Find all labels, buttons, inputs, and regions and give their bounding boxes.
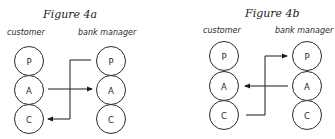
svg-text:C: C	[221, 111, 227, 121]
figure-4b: Figure 4b customer bank manager P A C P	[203, 7, 334, 130]
ego-state-child: C	[210, 101, 239, 130]
customer-label: customer	[7, 28, 45, 37]
ego-state-adult: A	[210, 72, 239, 101]
customer-label: customer	[203, 26, 241, 35]
bank-manager-ego-states: P A C	[97, 47, 126, 134]
ego-state-parent: P	[15, 47, 44, 76]
svg-text:C: C	[26, 115, 32, 125]
figure-4a: Figure 4a customer bank manager P A C P	[7, 8, 137, 134]
svg-text:P: P	[26, 57, 31, 67]
svg-text:C: C	[304, 111, 310, 121]
ego-state-adult: A	[97, 76, 126, 105]
ego-state-adult: A	[293, 72, 322, 101]
figure-title: Figure 4a	[42, 8, 97, 21]
svg-text:A: A	[26, 86, 32, 96]
ego-state-parent: P	[293, 42, 322, 71]
ego-state-parent: P	[210, 42, 239, 71]
svg-text:A: A	[304, 82, 310, 92]
customer-ego-states: P A C	[15, 47, 44, 134]
customer-ego-states: P A C	[210, 42, 239, 130]
svg-text:A: A	[108, 86, 114, 96]
bank-manager-ego-states: P A C	[293, 42, 322, 130]
ego-state-adult: A	[15, 76, 44, 105]
svg-text:P: P	[304, 52, 309, 62]
ego-state-parent: P	[97, 47, 126, 76]
bank-manager-label: bank manager	[78, 28, 137, 37]
svg-text:A: A	[221, 82, 227, 92]
ego-state-child: C	[15, 105, 44, 134]
transactional-analysis-diagram: Figure 4a customer bank manager P A C P	[0, 0, 335, 139]
svg-text:C: C	[108, 115, 114, 125]
bank-manager-label: bank manager	[275, 26, 334, 35]
ego-state-child: C	[293, 101, 322, 130]
svg-text:P: P	[108, 57, 113, 67]
figure-title: Figure 4b	[244, 7, 300, 20]
svg-text:P: P	[221, 52, 226, 62]
ego-state-child: C	[97, 105, 126, 134]
